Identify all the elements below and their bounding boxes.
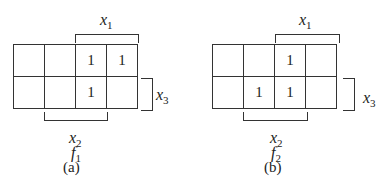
kmap-row-1: 1 1 <box>213 77 337 109</box>
kmap-cell: 1 <box>76 45 107 77</box>
kmap-cell: 1 <box>107 45 138 77</box>
karnaugh-map-a: x1 1 1 1 x3 x2 f1 (a) <box>0 0 193 182</box>
x3-bracket <box>141 78 153 111</box>
x1-bracket <box>75 34 139 43</box>
kmap-cell: 1 <box>275 77 306 109</box>
kmap-cell <box>213 77 244 109</box>
kmap-row-0: 1 1 <box>14 45 138 77</box>
x1-bracket <box>275 34 340 43</box>
kmap-cell <box>14 77 45 109</box>
kmap-cell <box>107 77 138 109</box>
kmap-cell: 1 <box>244 77 275 109</box>
x3-label: x3 <box>156 87 169 106</box>
kmap-cell <box>244 45 275 77</box>
kmap-cell <box>45 45 76 77</box>
x1-label: x1 <box>299 12 312 31</box>
kmap-cell <box>306 77 337 109</box>
kmap-row-0: 1 <box>213 45 337 77</box>
x3-label: x3 <box>363 90 376 109</box>
x3-bracket <box>343 78 355 111</box>
kmap-grid: 1 1 1 <box>212 44 337 109</box>
karnaugh-map-b: x1 1 1 1 x3 x2 f2 (b) <box>193 0 386 182</box>
kmap-cell: 1 <box>76 77 107 109</box>
kmap-cell: 1 <box>275 45 306 77</box>
kmap-cell <box>45 77 76 109</box>
kmap-cell <box>306 45 337 77</box>
kmap-cell <box>14 45 45 77</box>
caption: (a) <box>63 160 80 175</box>
x1-label: x1 <box>100 12 113 31</box>
caption: (b) <box>264 160 282 175</box>
x2-bracket <box>44 112 108 121</box>
kmap-cell <box>213 45 244 77</box>
x2-bracket <box>243 112 308 121</box>
kmap-row-1: 1 <box>14 77 138 109</box>
kmap-grid: 1 1 1 <box>13 44 138 109</box>
